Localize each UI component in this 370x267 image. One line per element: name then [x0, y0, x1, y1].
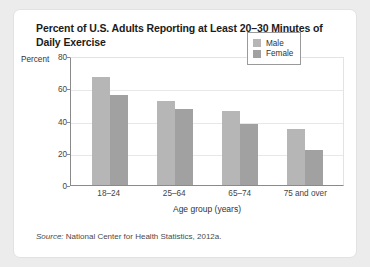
bar-groups: [71, 58, 343, 185]
chart-card: Percent of U.S. Adults Reporting at Leas…: [13, 9, 357, 258]
y-axis-tick-label: 40: [21, 117, 67, 126]
bar-group: [287, 58, 323, 185]
bar-male: [92, 77, 110, 185]
source-prefix: Source:: [36, 232, 64, 241]
bar-female: [110, 95, 128, 185]
y-axis-tick-mark: [67, 186, 70, 187]
x-axis-tick-label: 25–64: [144, 189, 204, 198]
x-axis-tick-labels: 18–2425–6465–7475 and over: [70, 189, 344, 198]
x-axis-tick-label: 18–24: [79, 189, 139, 198]
legend: Male Female: [247, 32, 301, 65]
source-note: Source: National Center for Health Stati…: [36, 232, 221, 241]
x-axis-tick-label: 75 and over: [275, 189, 335, 198]
y-axis-ticks: 020406080: [14, 57, 67, 186]
bar-female: [175, 109, 193, 185]
bar-male: [287, 129, 305, 185]
plot-area: [70, 57, 344, 186]
bar-group: [92, 58, 128, 185]
bar-group: [222, 58, 258, 185]
x-axis-title: Age group (years): [70, 204, 344, 214]
source-text: National Center for Health Statistics, 2…: [66, 232, 222, 241]
legend-item-female: Female: [253, 49, 293, 58]
bar-male: [222, 111, 240, 185]
bar-female: [305, 150, 323, 185]
legend-label-female: Female: [266, 49, 293, 58]
y-axis-tick-label: 80: [21, 53, 67, 62]
bar-male: [157, 101, 175, 185]
legend-label-male: Male: [266, 39, 284, 48]
legend-swatch-male-icon: [253, 39, 261, 47]
bar-group: [157, 58, 193, 185]
y-axis-tick-label: 60: [21, 85, 67, 94]
y-axis-tick-label: 20: [21, 149, 67, 158]
legend-swatch-female-icon: [253, 50, 261, 58]
bar-female: [240, 124, 258, 185]
legend-item-male: Male: [253, 39, 293, 48]
y-axis-tick-label: 0: [21, 182, 67, 191]
x-axis-tick-label: 65–74: [210, 189, 270, 198]
